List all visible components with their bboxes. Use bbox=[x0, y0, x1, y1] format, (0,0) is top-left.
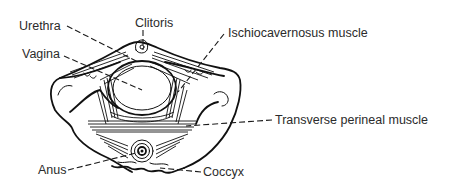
label-transverse-perineal: Transverse perineal muscle bbox=[275, 113, 428, 127]
vagina-inner bbox=[113, 66, 171, 110]
labels: Urethra Clitoris Vagina Ischiocavernosus… bbox=[19, 16, 428, 179]
perineum-diagram: Urethra Clitoris Vagina Ischiocavernosus… bbox=[0, 0, 451, 188]
leader-lines bbox=[64, 26, 272, 172]
left-ischiocavernosus bbox=[70, 52, 134, 84]
label-vagina: Vagina bbox=[22, 47, 60, 61]
vagina-outer bbox=[108, 61, 176, 115]
leader-transverse bbox=[186, 120, 272, 126]
left-ramus bbox=[60, 62, 120, 112]
leader-ischiocavernosus bbox=[178, 34, 224, 92]
leader-vagina bbox=[64, 56, 142, 90]
label-coccyx: Coccyx bbox=[203, 165, 245, 179]
label-ischiocavernosus: Ischiocavernosus muscle bbox=[228, 26, 368, 40]
label-clitoris: Clitoris bbox=[135, 16, 173, 30]
label-urethra: Urethra bbox=[19, 19, 61, 33]
anatomy-drawing bbox=[51, 40, 241, 173]
label-anus: Anus bbox=[38, 163, 67, 177]
anus-center bbox=[141, 150, 144, 153]
